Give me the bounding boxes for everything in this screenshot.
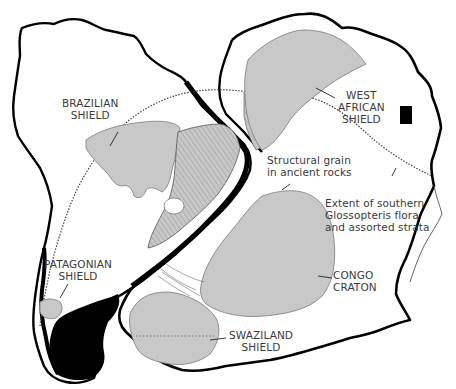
glossopteris-label: Extent of southern Glossopteris flora an…: [325, 197, 430, 233]
label-line: SWAZILAND: [229, 329, 293, 341]
label-line: WEST: [338, 89, 385, 101]
swaziland-shield-label: SWAZILAND SHIELD: [229, 329, 293, 353]
label-line: CONGO: [333, 269, 377, 281]
patagonian-shield-label: PATAGONIAN SHIELD: [44, 258, 112, 282]
lake-victoria-mark: [400, 106, 412, 124]
label-line: PATAGONIAN: [44, 258, 112, 270]
fan-structure-lines: [158, 264, 204, 296]
label-line: Extent of southern: [325, 197, 430, 209]
label-line: SHIELD: [229, 341, 293, 353]
label-line: and assorted strata: [325, 221, 430, 233]
congo-craton-label: CONGO CRATON: [333, 269, 377, 293]
label-line: SHIELD: [62, 109, 118, 121]
label-line: Structural grain: [267, 154, 352, 166]
label-line: Glossopteris flora: [325, 209, 430, 221]
label-line: BRAZILIAN: [62, 97, 118, 109]
label-line: SHIELD: [44, 270, 112, 282]
label-line: in ancient rocks: [267, 166, 352, 178]
inlier-ellipse: [164, 198, 184, 214]
west-african-shield-label: WEST AFRICAN SHIELD: [338, 89, 385, 125]
brazilian-shield-area: [86, 121, 180, 197]
patagonian-shield-area: [40, 299, 62, 319]
label-line: SHIELD: [338, 113, 385, 125]
label-line: CRATON: [333, 281, 377, 293]
label-line: AFRICAN: [338, 101, 385, 113]
gondwana-map: [0, 0, 456, 389]
brazilian-shield-label: BRAZILIAN SHIELD: [62, 97, 118, 121]
structural-grain-label: Structural grain in ancient rocks: [267, 154, 352, 178]
